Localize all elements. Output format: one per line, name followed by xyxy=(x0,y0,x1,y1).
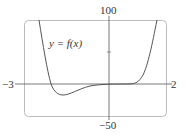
chart-canvas xyxy=(0,0,186,136)
y-min-label: −50 xyxy=(99,120,116,131)
y-max-label: 100 xyxy=(100,5,117,16)
x-max-label: 2 xyxy=(171,79,177,90)
curve-label: y = f(x) xyxy=(49,38,82,49)
x-min-label: −3 xyxy=(2,79,14,90)
